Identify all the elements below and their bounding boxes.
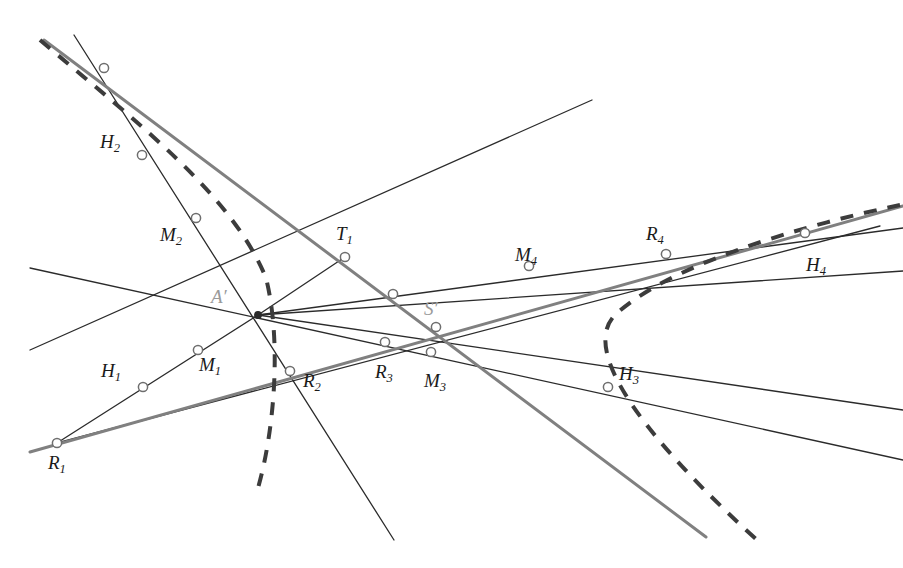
label-base: M [424, 370, 440, 391]
geometry-figure: H2M2T1M4R4H4A′S′H1M1R2R3M3H3R1 [0, 0, 903, 568]
point-label-M3: M3 [424, 371, 446, 393]
point-label-R4: R4 [646, 224, 664, 246]
point-label-A1: A′ [211, 287, 227, 306]
dashed-conic-group [40, 40, 900, 540]
line-Aprime-to-H3 [258, 315, 903, 410]
line-Aprime-to-M4 [258, 271, 903, 315]
label-base: H [100, 131, 114, 152]
thick-line-group [30, 40, 903, 537]
figure-canvas [0, 0, 903, 568]
label-base: T [336, 223, 347, 244]
label-subscript: 2 [176, 234, 182, 248]
point-label-M2: M2 [160, 225, 182, 247]
marker-H1[interactable] [138, 382, 147, 391]
marker-A-prime[interactable] [255, 312, 261, 318]
marker-R4[interactable] [661, 249, 670, 258]
point-label-M4: M4 [515, 245, 537, 267]
label-subscript: 3 [387, 371, 393, 385]
label-subscript: 3 [440, 380, 446, 394]
line-Aprime-to-M1 [57, 315, 258, 443]
label-subscript: 1 [215, 364, 221, 378]
marker-T1[interactable] [340, 252, 349, 261]
label-prime: ′ [223, 286, 227, 307]
label-base: S [424, 298, 434, 319]
point-label-H1: H1 [101, 361, 121, 383]
point-label-R2: R2 [303, 371, 321, 393]
marker-H4[interactable] [800, 228, 809, 237]
label-subscript: 4 [820, 264, 826, 278]
point-label-H3: H3 [619, 364, 639, 386]
label-base: M [199, 354, 215, 375]
label-base: H [806, 254, 820, 275]
point-label-M1: M1 [199, 355, 221, 377]
point-label-T1: T1 [336, 224, 353, 246]
marker-H2[interactable] [137, 150, 146, 159]
label-subscript: 1 [60, 462, 66, 476]
line-Aprime-to-T1 [258, 257, 345, 315]
label-subscript: 1 [347, 233, 353, 247]
label-base: M [515, 244, 531, 265]
thin-line-group [30, 35, 903, 540]
point-label-S1: S′ [424, 299, 438, 318]
label-subscript: 2 [114, 141, 120, 155]
label-base: H [619, 363, 633, 384]
label-subscript: 2 [315, 380, 321, 394]
label-subscript: 1 [115, 370, 121, 384]
line-pencil-left-upper [30, 268, 903, 460]
label-base: R [303, 370, 315, 391]
marker-M3[interactable] [426, 347, 435, 356]
label-base: H [101, 360, 115, 381]
label-base: R [646, 223, 658, 244]
point-label-R1: R1 [48, 453, 66, 475]
label-base: R [48, 452, 60, 473]
label-base: M [160, 224, 176, 245]
marker-M2[interactable] [191, 213, 200, 222]
label-base: A [211, 286, 223, 307]
marker-top-left[interactable] [99, 63, 108, 72]
label-subscript: 3 [633, 373, 639, 387]
marker-R2[interactable] [285, 366, 294, 375]
marker-unlabeled[interactable] [388, 289, 397, 298]
conic-left-branch [40, 40, 275, 488]
marker-R1[interactable] [52, 438, 61, 447]
label-base: R [375, 361, 387, 382]
point-label-H4: H4 [806, 255, 826, 277]
label-prime: ′ [434, 298, 438, 319]
label-subscript: 4 [531, 254, 537, 268]
marker-S-prime[interactable] [431, 322, 440, 331]
marker-H3[interactable] [603, 382, 612, 391]
point-label-H2: H2 [100, 132, 120, 154]
marker-R3[interactable] [380, 337, 389, 346]
point-label-R3: R3 [375, 362, 393, 384]
label-subscript: 4 [658, 233, 664, 247]
